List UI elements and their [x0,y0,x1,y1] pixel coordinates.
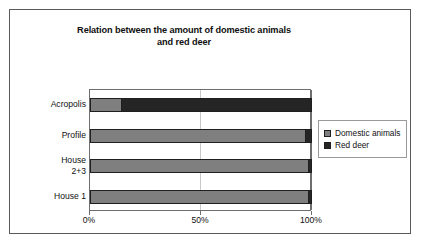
plot-inner [90,90,310,210]
bar-segment-domestic-animals[interactable] [90,190,308,204]
legend-swatch-domestic-animals-icon [324,130,331,137]
y-axis-label-0: Acropolis [20,99,86,110]
legend-label: Red deer [335,140,369,150]
plot-area [89,89,311,211]
y-axis-category-labels: AcropolisProfileHouse 2+3House 1 [18,89,86,211]
chart-legend: Domestic animalsRed deer [318,120,407,158]
x-tick-label-100: 100% [300,215,322,225]
bar-segment-red-deer[interactable] [308,159,312,173]
bar-segment-red-deer[interactable] [305,129,312,143]
bar-row[interactable] [90,98,312,112]
x-tick-label-0: 0% [83,215,95,225]
legend-label: Domestic animals [335,128,400,138]
bar-row[interactable] [90,190,312,204]
legend-item-red-deer[interactable]: Red deer [324,140,400,150]
y-axis-label-2: House 2+3 [20,155,86,176]
chart-figure: Relation between the amount of domestic … [0,0,422,246]
x-axis-tick-labels: 0%50%100% [89,215,311,229]
y-axis-label-1: Profile [20,130,86,141]
legend-item-domestic-animals[interactable]: Domestic animals [324,128,400,138]
bar-segment-domestic-animals[interactable] [90,129,305,143]
figure-frame: Relation between the amount of domestic … [9,9,411,234]
bar-segment-red-deer[interactable] [121,98,312,112]
x-tick-label-50: 50% [191,215,208,225]
bar-row[interactable] [90,159,312,173]
chart-title: Relation between the amount of domestic … [34,24,334,48]
bar-segment-domestic-animals[interactable] [90,159,308,173]
bar-row[interactable] [90,129,312,143]
bar-segment-red-deer[interactable] [308,190,312,204]
y-axis-label-3: House 1 [20,191,86,202]
bar-segment-domestic-animals[interactable] [90,98,121,112]
legend-swatch-red-deer-icon [324,142,331,149]
